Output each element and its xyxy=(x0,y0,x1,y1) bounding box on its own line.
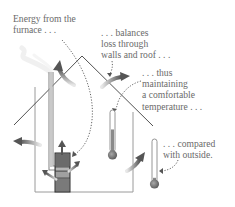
caption-line: Energy from the xyxy=(13,13,76,24)
diagram-stage: Energy from the furnace . . . . . . bala… xyxy=(0,0,235,207)
furnace xyxy=(55,153,70,192)
caption-compared-outside: . . . compared with outside. xyxy=(163,138,215,160)
caption-line: walls and roof . . . xyxy=(101,49,170,60)
thermometer-inside-mercury xyxy=(111,129,114,152)
leader-energy-arrowhead xyxy=(72,151,77,157)
thermometer-inside xyxy=(108,110,117,160)
leader-thus xyxy=(115,81,141,110)
leader-balances-arrowhead xyxy=(107,73,112,77)
caption-balances-loss: . . . balances loss through walls and ro… xyxy=(101,27,170,61)
caption-line: . . . compared xyxy=(163,138,215,149)
thermometer-outside-bulb xyxy=(150,179,159,188)
caption-line: a comfortable xyxy=(142,89,202,100)
caption-line: . . . thus xyxy=(142,67,202,78)
thermometer-outside xyxy=(150,139,159,189)
caption-energy-from-furnace: Energy from the furnace . . . xyxy=(13,13,76,35)
smoke xyxy=(22,48,52,72)
caption-line: with outside. xyxy=(163,149,215,160)
leader-compared-arrowhead xyxy=(159,168,163,174)
thermometer-inside-bulb xyxy=(108,150,117,159)
leader-balances xyxy=(110,61,112,74)
caption-line: temperature . . . xyxy=(142,101,202,112)
caption-line: loss through xyxy=(101,38,170,49)
caption-line: . . . balances xyxy=(101,27,170,38)
heat-loss-arrow-right-wall xyxy=(127,152,145,171)
caption-line: maintaining xyxy=(142,78,202,89)
heat-loss-arrow-roof-left xyxy=(53,60,74,85)
heat-loss-arrow-left-wall xyxy=(13,137,40,146)
caption-line: furnace . . . xyxy=(13,24,76,35)
house-outline xyxy=(14,56,153,192)
leader-energy xyxy=(62,40,92,155)
caption-maintaining-temperature: . . . thus maintaining a comfortable tem… xyxy=(142,67,202,112)
leader-compared xyxy=(162,160,178,171)
